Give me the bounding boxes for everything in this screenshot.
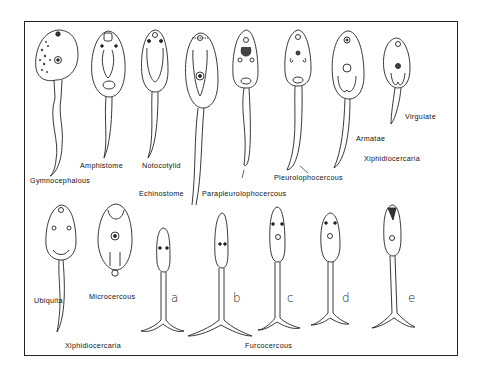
label-microcercous: Microcercous	[89, 292, 135, 301]
label-echinostome: Echinostome	[139, 189, 184, 198]
notocotylid-cercaria	[142, 30, 168, 158]
label-notocotylid: Notocotylid	[142, 161, 181, 170]
pleurolophocercous-cercaria	[285, 30, 311, 170]
armatae-cercaria	[332, 31, 364, 168]
parapleurolophocercous-cercaria	[233, 30, 258, 166]
variant-label-b: b	[233, 291, 241, 305]
label-furcocercous: Furcocercous	[245, 341, 292, 350]
furcocercous-a-cercaria	[141, 228, 184, 331]
furcocercous-c-cercaria	[258, 207, 300, 330]
echinostome-cercaria	[186, 33, 218, 205]
furcocercous-b-cercaria	[188, 213, 252, 336]
cercaria-drawings	[0, 0, 478, 375]
label-ubiquita: Ubiquita	[34, 296, 63, 305]
variant-label-d: d	[342, 291, 350, 305]
variant-label-a: a	[171, 291, 178, 305]
label-xiphidiocercaria-bottom: Xiphidiocercaria	[65, 341, 121, 350]
furcocercous-d-cercaria	[311, 213, 349, 325]
label-parapleurolophocercous: Parapleurolophocercous	[202, 189, 287, 198]
label-amphistome: Amphistome	[80, 161, 123, 170]
variant-label-c: c	[287, 291, 294, 305]
microcercous-cercaria	[98, 204, 132, 276]
label-armatae: Armatae	[356, 134, 385, 143]
amphistome-cercaria	[92, 31, 125, 158]
variant-label-e: e	[408, 291, 415, 305]
label-gymnocephalous: Gymnocephalous	[30, 176, 90, 185]
furcocercous-e-cercaria	[372, 205, 415, 328]
label-xiphidiocercaria-top: Xiphidiocercaria	[364, 154, 420, 163]
gymnocephalous-cercaria	[36, 30, 78, 176]
ubiquita-cercaria	[46, 205, 76, 332]
label-virgulate: Virgulate	[405, 112, 436, 121]
label-pleurolophocercous: Pleurolophocercous	[274, 173, 343, 182]
